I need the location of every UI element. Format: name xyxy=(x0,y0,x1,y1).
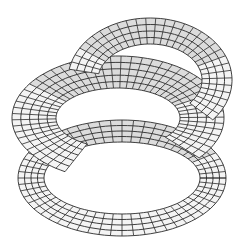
figure-canvas xyxy=(0,0,246,243)
twisted-band-wireframe xyxy=(0,0,246,243)
